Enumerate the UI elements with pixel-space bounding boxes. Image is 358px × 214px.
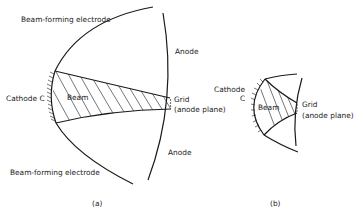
beam-edge-bottom xyxy=(56,109,171,123)
label-beam: Beam xyxy=(67,93,88,102)
label-cathode-b-line1: Cathode xyxy=(214,85,245,94)
label-grid: Grid xyxy=(174,95,190,104)
label-beam-forming-electrode-bottom: Beam-forming electrode xyxy=(10,168,100,177)
label-beam-b: Beam xyxy=(258,103,279,112)
label-anode-top: Anode xyxy=(175,47,199,56)
label-cathode-b-line2: C xyxy=(240,94,245,103)
label-grid-sub: (anode plane) xyxy=(174,105,226,114)
caption-a: (a) xyxy=(92,199,102,208)
diagram-b: Cathode C Beam Grid (anode plane) (b) xyxy=(214,74,354,208)
label-cathode: Cathode C xyxy=(6,94,45,103)
beam-forming-electrode-top-b xyxy=(265,74,297,79)
label-grid-sub-b: (anode plane) xyxy=(302,111,354,120)
caption-b: (b) xyxy=(270,199,281,208)
label-anode-bottom: Anode xyxy=(168,148,192,157)
label-beam-forming-electrode-top: Beam-forming electrode xyxy=(21,15,111,24)
beam-forming-electrode-bottom-b xyxy=(264,135,298,152)
grid xyxy=(170,99,171,106)
electron-gun-diagram: Beam-forming electrode Beam-forming elec… xyxy=(0,0,358,214)
beam-edge-top-b xyxy=(265,79,297,103)
diagram-a: Beam-forming electrode Beam-forming elec… xyxy=(6,7,226,208)
grid-b xyxy=(296,104,297,111)
label-grid-b: Grid xyxy=(302,100,318,109)
anode-b xyxy=(295,78,302,146)
cathode xyxy=(51,71,56,123)
